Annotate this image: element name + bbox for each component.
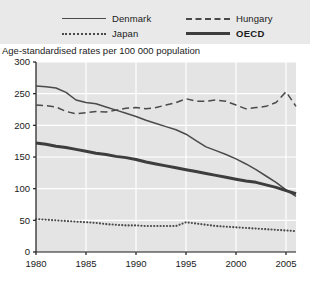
y-tick-label: 50: [19, 215, 30, 226]
line-chart-svg: 0501001502002503001980198519901995200020…: [0, 56, 310, 286]
y-tick-label: 250: [14, 88, 30, 99]
legend-swatch-hungary-icon: [186, 18, 230, 20]
legend-label: Hungary: [236, 12, 273, 25]
x-tick-label: 1990: [125, 258, 146, 269]
x-tick-label: 2000: [225, 258, 246, 269]
legend-swatch-oecd-icon: [186, 32, 230, 39]
y-axis-caption: Age-standardised rates per 100 000 popul…: [2, 45, 200, 56]
legend-label: Denmark: [112, 12, 151, 25]
y-tick-label: 0: [25, 246, 30, 257]
figure: DenmarkHungaryJapanOECD Age-standardised…: [0, 0, 310, 286]
x-tick-label: 1985: [75, 258, 96, 269]
legend-label: Japan: [112, 27, 138, 40]
legend-label: OECD: [236, 27, 265, 40]
y-tick-label: 300: [14, 56, 30, 67]
x-tick-label: 1995: [175, 258, 196, 269]
legend-swatch-japan-icon: [62, 33, 106, 35]
chart-legend: DenmarkHungaryJapanOECD: [0, 0, 310, 44]
x-tick-label: 2005: [275, 258, 296, 269]
y-tick-label: 200: [14, 120, 30, 131]
y-tick-label: 100: [14, 183, 30, 194]
x-tick-label: 1980: [25, 258, 46, 269]
y-tick-label: 150: [14, 151, 30, 162]
legend-swatch-denmark-icon: [62, 18, 106, 23]
plot-area: 0501001502002503001980198519901995200020…: [0, 56, 310, 286]
